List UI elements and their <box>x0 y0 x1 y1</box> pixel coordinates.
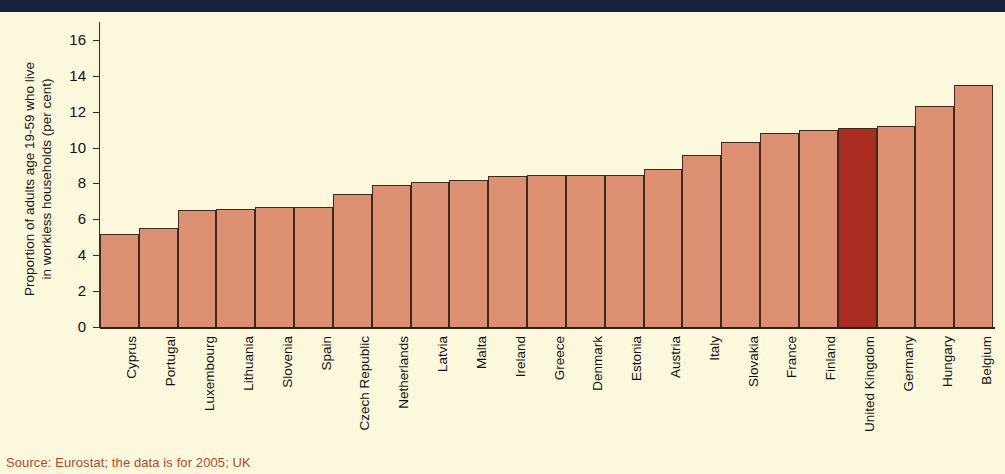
x-axis-label-netherlands: Netherlands <box>396 336 411 409</box>
bar-slot <box>255 22 294 327</box>
bar-lithuania[interactable] <box>216 209 255 327</box>
bar-belgium[interactable] <box>954 85 993 327</box>
bar-malta[interactable] <box>449 180 488 327</box>
x-axis-label-cyprus: Cyprus <box>124 336 139 379</box>
y-tick-label-2: 2 <box>40 283 86 298</box>
x-label-slot: Latvia <box>411 332 450 452</box>
bar-denmark[interactable] <box>566 175 605 328</box>
x-axis-labels: CyprusPortugalLuxembourgLithuaniaSloveni… <box>100 332 993 452</box>
x-label-slot: Netherlands <box>372 332 411 452</box>
bar-slovakia[interactable] <box>721 142 760 327</box>
y-tick-0 <box>93 327 100 328</box>
y-tick-label-10: 10 <box>40 140 86 155</box>
header-band <box>0 0 1005 12</box>
x-label-slot: Germany <box>877 332 916 452</box>
bar-germany[interactable] <box>877 126 916 327</box>
x-axis-label-spain: Spain <box>319 336 334 371</box>
bar-slot <box>838 22 877 327</box>
y-tick-label-14: 14 <box>40 68 86 83</box>
y-tick-12 <box>93 112 100 113</box>
y-tick-4 <box>93 255 100 256</box>
bar-slot <box>799 22 838 327</box>
bar-slot <box>294 22 333 327</box>
bar-italy[interactable] <box>682 155 721 327</box>
x-axis-label-malta: Malta <box>474 336 489 369</box>
bar-finland[interactable] <box>799 130 838 327</box>
bar-slot <box>605 22 644 327</box>
x-label-slot: Czech Republic <box>333 332 372 452</box>
chart-figure: Proportion of adults age 19-59 who live … <box>0 12 1005 474</box>
x-label-slot: Italy <box>682 332 721 452</box>
x-label-slot: Portugal <box>139 332 178 452</box>
bar-spain[interactable] <box>294 207 333 327</box>
bar-slot <box>954 22 993 327</box>
bar-czech-republic[interactable] <box>333 194 372 327</box>
y-tick-label-16: 16 <box>40 32 86 47</box>
x-label-slot: Slovenia <box>255 332 294 452</box>
bar-slot <box>488 22 527 327</box>
x-axis-label-slovenia: Slovenia <box>280 336 295 388</box>
bar-slot <box>372 22 411 327</box>
bar-slot <box>449 22 488 327</box>
x-axis-label-ireland: Ireland <box>513 336 528 377</box>
x-axis-label-denmark: Denmark <box>590 336 605 391</box>
bar-slot <box>682 22 721 327</box>
x-axis-label-italy: Italy <box>707 336 722 361</box>
bar-slot <box>760 22 799 327</box>
x-axis-label-lithuania: Lithuania <box>241 336 256 391</box>
x-axis-label-hungary: Hungary <box>940 336 955 387</box>
x-label-slot: Luxembourg <box>178 332 217 452</box>
x-axis-label-united-kingdom: United Kingdom <box>862 336 877 432</box>
y-tick-6 <box>93 219 100 220</box>
x-label-slot: Hungary <box>915 332 954 452</box>
x-label-slot: Austria <box>644 332 683 452</box>
x-axis-label-belgium: Belgium <box>979 336 994 385</box>
x-axis-label-latvia: Latvia <box>435 336 450 372</box>
y-tick-2 <box>93 291 100 292</box>
bar-united-kingdom[interactable] <box>838 128 877 327</box>
y-tick-label-6: 6 <box>40 211 86 226</box>
bar-ireland[interactable] <box>488 176 527 327</box>
bar-slovenia[interactable] <box>255 207 294 327</box>
bar-slot <box>644 22 683 327</box>
x-label-slot: Lithuania <box>216 332 255 452</box>
bar-latvia[interactable] <box>411 182 450 327</box>
y-tick-16 <box>93 40 100 41</box>
x-axis-line <box>100 327 995 329</box>
x-axis-label-czech-republic: Czech Republic <box>357 336 372 431</box>
bar-estonia[interactable] <box>605 175 644 328</box>
bar-slot <box>411 22 450 327</box>
y-tick-10 <box>93 148 100 149</box>
y-tick-14 <box>93 76 100 77</box>
y-tick-label-0: 0 <box>40 319 86 334</box>
bar-slot <box>139 22 178 327</box>
x-label-slot: Belgium <box>954 332 993 452</box>
x-label-slot: Malta <box>449 332 488 452</box>
bar-greece[interactable] <box>527 175 566 328</box>
bar-cyprus[interactable] <box>100 234 139 327</box>
bar-series <box>100 22 993 327</box>
x-axis-label-greece: Greece <box>552 336 567 380</box>
x-label-slot: Slovakia <box>721 332 760 452</box>
bar-slot <box>721 22 760 327</box>
bar-slot <box>527 22 566 327</box>
y-tick-label-4: 4 <box>40 247 86 262</box>
y-tick-8 <box>93 183 100 184</box>
bar-portugal[interactable] <box>139 228 178 327</box>
bar-luxembourg[interactable] <box>178 210 217 327</box>
x-label-slot: Cyprus <box>100 332 139 452</box>
bar-france[interactable] <box>760 133 799 327</box>
x-label-slot: Denmark <box>566 332 605 452</box>
x-label-slot: Ireland <box>488 332 527 452</box>
x-label-slot: Spain <box>294 332 333 452</box>
bar-austria[interactable] <box>644 169 683 327</box>
bar-netherlands[interactable] <box>372 185 411 327</box>
bar-slot <box>100 22 139 327</box>
x-axis-label-finland: Finland <box>823 336 838 380</box>
x-label-slot: Estonia <box>605 332 644 452</box>
x-label-slot: Greece <box>527 332 566 452</box>
bar-hungary[interactable] <box>915 106 954 327</box>
x-axis-label-luxembourg: Luxembourg <box>202 336 217 411</box>
x-axis-label-portugal: Portugal <box>163 336 178 386</box>
y-tick-label-8: 8 <box>40 175 86 190</box>
